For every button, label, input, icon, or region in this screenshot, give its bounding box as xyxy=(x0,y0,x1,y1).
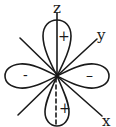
lower-left-diagonal-line xyxy=(18,78,56,115)
left-lobe-sign: - xyxy=(23,67,28,83)
z-axis-label: z xyxy=(53,0,61,17)
right-lobe-sign: – xyxy=(86,67,93,83)
top-lobe-sign: + xyxy=(58,28,70,44)
bottom-lobe-sign: + xyxy=(59,100,71,116)
orbital-diagram: z y x + + - – xyxy=(0,0,116,127)
x-axis-label: x xyxy=(102,112,111,127)
y-axis-label: y xyxy=(96,26,106,44)
right-lobe xyxy=(57,64,109,88)
